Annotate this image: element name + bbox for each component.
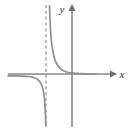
y-axis-label: y [59, 3, 65, 15]
rational-function-figure: y x [0, 0, 129, 137]
x-axis-arrowhead [110, 70, 117, 77]
curve-lower-left-branch [8, 76, 46, 126]
y-axis-arrowhead [68, 4, 75, 11]
x-axis-label: x [119, 68, 125, 80]
y-axis [68, 4, 75, 127]
graph-canvas: y x [0, 0, 129, 137]
